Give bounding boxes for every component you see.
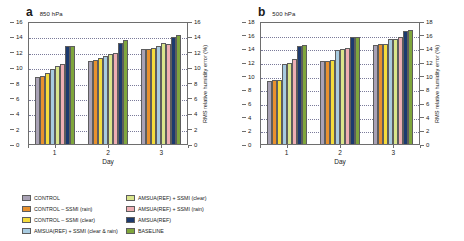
panel-b-x-tick-labels: 123	[260, 145, 420, 159]
x-axis-tick-label: 1	[28, 145, 81, 159]
tick-mark-icon	[420, 104, 424, 105]
tick-mark-icon	[10, 98, 14, 99]
panel-a-plot-area	[28, 22, 188, 145]
tick-mark-icon	[242, 117, 246, 118]
tick-mark-icon	[420, 131, 424, 132]
panel-a-y-axis-label: RMS relative humidity error (%)	[199, 22, 211, 145]
y-axis-tick-label: 2	[16, 127, 26, 133]
tick-mark-icon	[188, 129, 192, 130]
legend-item: AMSUA(REF) + SSMI (clear)	[126, 192, 206, 203]
y-axis-tick: 12	[10, 50, 26, 56]
legend-swatch-icon	[22, 206, 31, 212]
legend-item: BASELINE	[126, 225, 206, 236]
panel-a-title: 850 hPa	[40, 11, 63, 17]
tick-mark-icon	[420, 35, 424, 36]
y-axis-tick-label: 16	[16, 19, 26, 25]
panel-b-header: b 500 hPa	[258, 6, 295, 18]
tick-mark-icon	[420, 90, 424, 91]
legend-item: AMSUA(REF) + SSMI (clear & rain)	[22, 225, 118, 236]
panel-b-plot-area	[260, 22, 420, 145]
y-axis-tick: 14	[242, 46, 258, 52]
legend-swatch-icon	[22, 217, 31, 223]
tick-mark-icon	[10, 68, 14, 69]
y-axis-tick: 16	[242, 33, 258, 39]
y-axis-tick-label: 16	[248, 33, 258, 39]
legend-item: AMSUA(REF) + SSMI (rain)	[126, 203, 206, 214]
bar-group	[373, 23, 413, 144]
y-axis-tick: 16	[10, 19, 26, 25]
panel-b-y-axis-label: RMS relative humidity error (%)	[431, 22, 443, 145]
chart-panel-b: b 500 hPa 024681012141618 02468101214161…	[232, 0, 464, 190]
legend-label: AMSUA(REF)	[138, 217, 171, 223]
legend-swatch-icon	[126, 195, 135, 201]
legend-label: AMSUA(REF) + SSMI (rain)	[138, 206, 204, 212]
bar-group	[320, 23, 360, 144]
y-axis-tick-label: 8	[248, 87, 258, 93]
tick-mark-icon	[188, 83, 192, 84]
bar	[408, 30, 413, 144]
tick-mark-icon	[188, 114, 192, 115]
legend-label: AMSUA(REF) + SSMI (clear & rain)	[34, 228, 118, 234]
legend-swatch-icon	[126, 206, 135, 212]
bar-group	[141, 23, 181, 144]
bar	[176, 35, 181, 144]
y-axis-tick: 6	[242, 101, 258, 107]
tick-mark-icon	[420, 63, 424, 64]
legend-swatch-icon	[22, 195, 31, 201]
x-axis-tick-label: 1	[260, 145, 313, 159]
chart-panel-a: a 850 hPa 0246810121416 0246810121416 RM…	[0, 0, 232, 190]
y-axis-tick: 8	[10, 81, 26, 87]
y-axis-tick-label: 2	[248, 128, 258, 134]
y-axis-tick: 6	[10, 96, 26, 102]
legend-item: CONTROL – SSMI (rain)	[22, 203, 118, 214]
y-axis-tick-label: 0	[248, 142, 258, 148]
legend-swatch-icon	[126, 217, 135, 223]
panel-b-bar-groups	[261, 23, 419, 144]
y-axis-tick: 0	[10, 142, 26, 148]
panel-a-x-axis: 123	[28, 145, 188, 159]
tick-mark-icon	[10, 114, 14, 115]
tick-mark-icon	[242, 49, 246, 50]
tick-mark-icon	[242, 131, 246, 132]
y-axis-tick-label: 14	[16, 34, 26, 40]
y-axis-tick-label: 10	[16, 65, 26, 71]
panel-b-title: 500 hPa	[272, 11, 295, 17]
y-axis-tick: 10	[242, 74, 258, 80]
x-tick-mark-icon	[420, 145, 421, 148]
panel-a-x-tick-labels: 123	[28, 145, 188, 159]
bar-group	[267, 23, 307, 144]
bar	[302, 45, 307, 144]
legend-item: CONTROL	[22, 192, 118, 203]
panel-a-letter: a	[26, 6, 33, 18]
tick-mark-icon	[242, 22, 246, 23]
panel-a-y-axis-left: 0246810121416	[0, 22, 26, 145]
x-axis-tick-label: 2	[313, 145, 366, 159]
figure-legend: CONTROLCONTROL – SSMI (rain)CONTROL – SS…	[22, 192, 442, 238]
y-axis-tick-label: 12	[16, 50, 26, 56]
panel-b-letter: b	[258, 6, 265, 18]
y-axis-tick-label: 4	[248, 115, 258, 121]
y-axis-tick: 2	[242, 128, 258, 134]
y-axis-tick: 12	[242, 60, 258, 66]
tick-mark-icon	[420, 49, 424, 50]
tick-mark-icon	[188, 68, 192, 69]
panel-b-x-axis-label: Day	[260, 158, 420, 165]
legend-swatch-icon	[22, 228, 31, 234]
tick-mark-icon	[242, 76, 246, 77]
y-axis-tick: 14	[10, 34, 26, 40]
tick-mark-icon	[188, 52, 192, 53]
y-axis-tick-label: 6	[248, 101, 258, 107]
bar	[70, 46, 75, 144]
y-axis-tick: 0	[242, 142, 258, 148]
tick-mark-icon	[242, 35, 246, 36]
legend-item: AMSUA(REF)	[126, 214, 206, 225]
legend-column-1: CONTROLCONTROL – SSMI (rain)CONTROL – SS…	[22, 192, 118, 236]
tick-mark-icon	[242, 63, 246, 64]
tick-mark-icon	[188, 98, 192, 99]
tick-mark-icon	[10, 129, 14, 130]
y-axis-tick-label: 8	[16, 81, 26, 87]
tick-mark-icon	[242, 104, 246, 105]
panel-b-x-axis: 123	[260, 145, 420, 159]
y-axis-tick-label: 10	[248, 74, 258, 80]
y-axis-tick: 18	[242, 19, 258, 25]
